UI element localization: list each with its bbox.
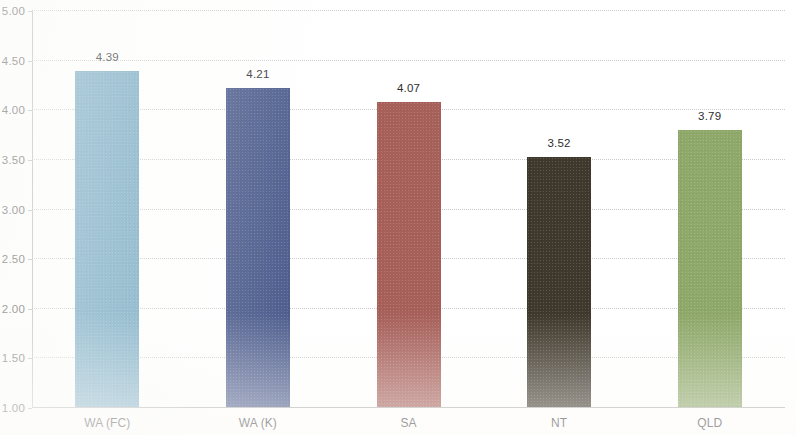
- x-tick-label: QLD: [697, 416, 722, 430]
- bar-group-wa-k[interactable]: 4.21 WA (K): [226, 10, 290, 407]
- bar-nt[interactable]: [527, 157, 591, 407]
- bar-chart: 5.00 4.50 4.00 3.50 3.00 2.50 2.00 1.50 …: [0, 0, 796, 435]
- bar-value-label: 4.07: [397, 82, 420, 94]
- plot-area: 5.00 4.50 4.00 3.50 3.00 2.50 2.00 1.50 …: [32, 10, 785, 407]
- bar-value-label: 3.79: [698, 110, 721, 122]
- bars-layer: 4.39 WA (FC) 4.21 WA (K) 4.07 SA 3.52 NT…: [32, 10, 785, 407]
- bar-wa-k[interactable]: [226, 88, 290, 407]
- bar-group-qld[interactable]: 3.79 QLD: [678, 10, 742, 407]
- y-tick-label: 4.00: [2, 104, 25, 116]
- bar-qld[interactable]: [678, 130, 742, 407]
- x-tick-label: WA (K): [239, 416, 277, 430]
- x-tick-label: WA (FC): [84, 416, 130, 430]
- y-tick-label: 3.00: [2, 204, 25, 216]
- bar-value-label: 4.21: [246, 68, 269, 80]
- y-tick-label: 2.50: [2, 253, 25, 265]
- y-tick-label: 2.00: [2, 303, 25, 315]
- bar-group-sa[interactable]: 4.07 SA: [377, 10, 441, 407]
- bar-value-label: 3.52: [548, 137, 571, 149]
- bar-sa[interactable]: [377, 102, 441, 407]
- bar-group-nt[interactable]: 3.52 NT: [527, 10, 591, 407]
- x-tick-label: NT: [551, 416, 567, 430]
- bar-value-label: 4.39: [96, 51, 119, 63]
- y-tick-mark: [28, 408, 32, 409]
- y-tick-label: 5.00: [2, 5, 25, 17]
- y-tick-label: 4.50: [2, 55, 25, 67]
- y-tick-label: 1.00: [2, 402, 25, 414]
- y-tick-label: 3.50: [2, 154, 25, 166]
- bar-wa-fc[interactable]: [75, 71, 139, 407]
- bar-group-wa-fc[interactable]: 4.39 WA (FC): [75, 10, 139, 407]
- x-tick-label: SA: [400, 416, 416, 430]
- gridline-1.00: 1.00: [32, 407, 785, 409]
- y-tick-label: 1.50: [2, 352, 25, 364]
